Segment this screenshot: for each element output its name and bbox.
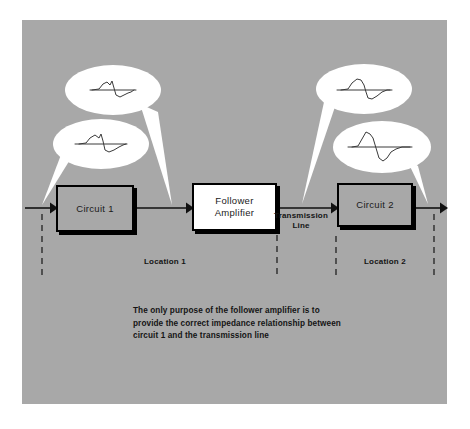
- callout-tail-top-left: [140, 104, 172, 205]
- block-follower-amplifier-label: Follower Amplifier: [215, 195, 255, 219]
- callout-bubble: [316, 64, 412, 114]
- callout-bottom-right: [333, 121, 431, 173]
- block-circuit-1-label: Circuit 1: [76, 203, 114, 215]
- block-circuit-2-label: Circuit 2: [356, 199, 394, 211]
- callout-top-left: [65, 65, 161, 115]
- figure-caption-line-2: provide the correct impedance relationsh…: [133, 318, 383, 331]
- figure-caption-line-3: circuit 1 and the transmission line: [133, 330, 383, 343]
- figure-root: Circuit 1 Follower Amplifier Circuit 2 T…: [0, 0, 470, 429]
- label-location-1: Location 1: [144, 257, 186, 267]
- block-follower-amplifier-label-line2: Amplifier: [215, 207, 255, 218]
- figure-caption: The only purpose of the follower amplifi…: [133, 305, 383, 343]
- label-location-2: Location 2: [364, 257, 406, 267]
- block-follower-amplifier[interactable]: Follower Amplifier: [192, 183, 277, 231]
- block-circuit-1[interactable]: Circuit 1: [56, 185, 134, 232]
- label-transmission-line: Transmission Line: [271, 211, 331, 231]
- callout-tail-top-right: [302, 98, 338, 204]
- block-circuit-2[interactable]: Circuit 2: [337, 183, 413, 227]
- callout-top-right: [316, 64, 412, 114]
- block-follower-amplifier-label-line1: Follower: [215, 195, 253, 206]
- callout-bottom-left: [53, 119, 149, 169]
- figure-caption-line-1: The only purpose of the follower amplifi…: [133, 305, 383, 318]
